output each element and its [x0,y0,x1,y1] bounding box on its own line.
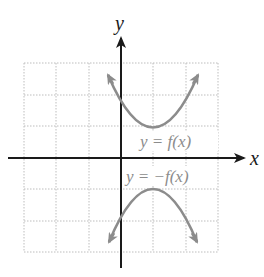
reflection-graph: x y y = f(x) y = −f(x) [0,0,264,277]
y-axis-label: y [113,12,124,35]
x-axis-label: x [249,147,259,169]
label-f: y = f(x) [138,132,191,151]
label-neg-f: y = −f(x) [124,167,189,186]
